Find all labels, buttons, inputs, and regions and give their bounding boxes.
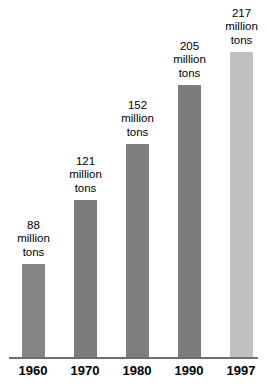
bar-value-number-1980: 152 — [121, 99, 154, 113]
bar-value-label-1960: 88 million tons — [17, 219, 50, 260]
bar-rect-1980[interactable] — [126, 144, 149, 357]
x-tick-label-1970: 1970 — [62, 361, 108, 381]
bar-value-label-1997: 217 million tons — [225, 7, 258, 48]
bar-value-unit-line2-1970: tons — [69, 182, 102, 196]
bar-value-unit-line1-1980: million — [121, 112, 154, 126]
bar-rect-1970[interactable] — [74, 200, 97, 357]
bar-value-number-1970: 121 — [69, 155, 102, 169]
bar-value-unit-line1-1990: million — [173, 53, 206, 67]
bar-value-unit-line2-1980: tons — [121, 126, 154, 140]
bar-value-label-1970: 121 million tons — [69, 155, 102, 196]
x-tick-label-1997: 1997 — [218, 361, 264, 381]
plot-area: 88 million tons 121 million tons 152 mil… — [0, 0, 267, 357]
x-tick-label-1960: 1960 — [10, 361, 56, 381]
bar-group-1997[interactable]: 217 million tons — [230, 52, 253, 357]
x-tick-label-1980: 1980 — [114, 361, 160, 381]
bar-value-unit-line2-1997: tons — [225, 34, 258, 48]
bar-value-unit-line2-1960: tons — [17, 246, 50, 260]
bar-rect-1997[interactable] — [230, 52, 253, 357]
bar-group-1990[interactable]: 205 million tons — [178, 85, 201, 357]
bar-value-unit-line2-1990: tons — [173, 67, 206, 81]
bar-value-label-1990: 205 million tons — [173, 40, 206, 81]
bar-value-number-1960: 88 — [17, 219, 50, 233]
bar-rect-1990[interactable] — [178, 85, 201, 357]
bar-group-1980[interactable]: 152 million tons — [126, 144, 149, 357]
bar-value-unit-line1-1997: million — [225, 20, 258, 34]
x-axis-line — [9, 357, 258, 359]
bar-value-unit-line1-1960: million — [17, 232, 50, 246]
bar-rect-1960[interactable] — [22, 264, 45, 357]
bar-chart: 88 million tons 121 million tons 152 mil… — [0, 0, 267, 387]
bar-value-number-1997: 217 — [225, 7, 258, 21]
bar-value-unit-line1-1970: million — [69, 168, 102, 182]
x-tick-label-1990: 1990 — [166, 361, 212, 381]
bar-group-1970[interactable]: 121 million tons — [74, 200, 97, 357]
bar-group-1960[interactable]: 88 million tons — [22, 264, 45, 357]
bar-value-label-1980: 152 million tons — [121, 99, 154, 140]
x-axis-tick-labels: 1960 1970 1980 1990 1997 — [0, 361, 267, 383]
bar-value-number-1990: 205 — [173, 40, 206, 54]
